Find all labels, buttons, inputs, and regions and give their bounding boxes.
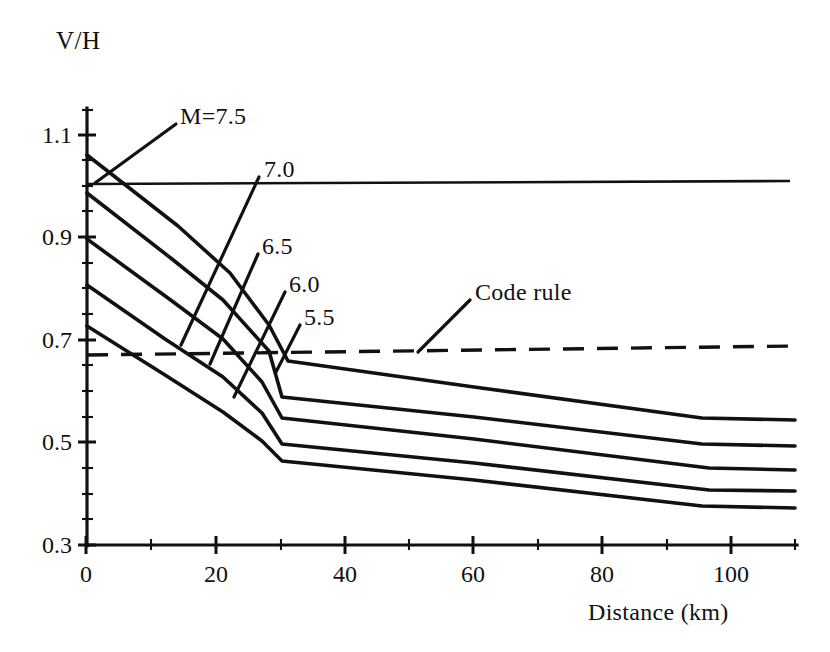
x-tick-label-0: 0 bbox=[80, 562, 92, 586]
leader-m75 bbox=[95, 124, 176, 183]
chart-canvas bbox=[0, 0, 830, 652]
y-tick-label-0.3: 0.3 bbox=[42, 533, 72, 557]
x-tick-label-100: 100 bbox=[713, 562, 749, 586]
x-tick-label-80: 80 bbox=[590, 562, 614, 586]
series-label-m65: 6.5 bbox=[262, 234, 293, 258]
y-axis-title: V/H bbox=[56, 28, 101, 53]
x-axis-title: Distance (km) bbox=[588, 600, 729, 624]
curve-m75 bbox=[87, 155, 795, 420]
leader-code-rule bbox=[418, 300, 470, 352]
leader-m70 bbox=[181, 177, 259, 345]
y-tick-label-0.7: 0.7 bbox=[42, 328, 72, 352]
x-tick-label-20: 20 bbox=[204, 562, 228, 586]
x-tick-label-60: 60 bbox=[461, 562, 485, 586]
series-label-m70: 7.0 bbox=[264, 157, 295, 181]
series-label-m75: M=7.5 bbox=[180, 104, 246, 128]
code-rule-line bbox=[87, 346, 795, 355]
chart-figure: V/H Distance (km) 1.1 0.9 0.7 0.5 0.3 0 … bbox=[0, 0, 830, 652]
x-tick-label-40: 40 bbox=[333, 562, 357, 586]
series-label-m55: 5.5 bbox=[304, 305, 335, 329]
code-rule-label: Code rule bbox=[475, 280, 572, 304]
y-tick-label-0.9: 0.9 bbox=[42, 225, 72, 249]
data-curves bbox=[87, 155, 795, 508]
y-tick-label-0.5: 0.5 bbox=[42, 430, 72, 454]
unity-reference-line bbox=[87, 181, 790, 184]
y-tick-label-1.1: 1.1 bbox=[42, 123, 72, 147]
series-label-m60: 6.0 bbox=[289, 272, 320, 296]
